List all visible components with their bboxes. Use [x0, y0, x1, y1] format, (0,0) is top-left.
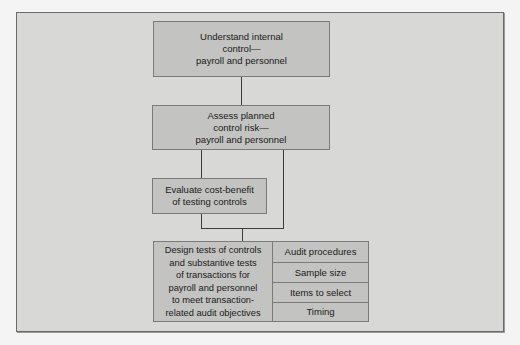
design-components-panel: Audit procedures Sample size Items to se…	[272, 241, 369, 322]
node-design-tests: Design tests of controls and substantive…	[153, 241, 273, 322]
connector-assess-join	[283, 149, 284, 229]
component-items-to-select: Items to select	[273, 282, 368, 302]
node-understand-internal-control: Understand internal control— payroll and…	[153, 21, 330, 77]
connector-assess-evaluate	[201, 149, 202, 178]
component-audit-procedures: Audit procedures	[273, 242, 368, 262]
connector-join-design	[242, 228, 243, 241]
component-timing: Timing	[273, 302, 368, 321]
connector-understand-assess	[241, 76, 242, 105]
connector-evaluate-join	[201, 213, 202, 229]
component-sample-size: Sample size	[273, 262, 368, 282]
node-evaluate-cost-benefit: Evaluate cost-benefit of testing control…	[152, 178, 267, 214]
node-assess-control-risk: Assess planned control risk— payroll and…	[152, 105, 330, 150]
